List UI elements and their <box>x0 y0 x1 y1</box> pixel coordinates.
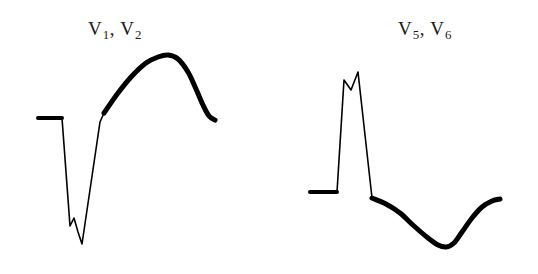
lead-label-v1-subscript: 1 <box>102 27 109 42</box>
right-qrs-complex <box>337 72 372 198</box>
ecg-traces-canvas <box>0 0 538 274</box>
left-qrs-complex <box>62 113 104 244</box>
lead-label-v2-subscript: 2 <box>134 27 141 42</box>
panel-right-trace <box>310 72 500 247</box>
lead-label-v6-base: V <box>430 18 444 39</box>
lead-label-v1-v2: V1, V2 <box>88 18 142 40</box>
lead-label-separator-right: , <box>420 18 431 39</box>
lead-label-v2-base: V <box>120 18 134 39</box>
lead-label-v5-v6: V5, V6 <box>398 18 452 40</box>
ecg-figure: V1, V2 V5, V6 <box>0 0 538 274</box>
lead-label-v6-subscript: 6 <box>444 27 451 42</box>
panel-left-trace <box>38 55 215 244</box>
lead-label-v5-subscript: 5 <box>412 27 419 42</box>
lead-label-separator-left: , <box>110 18 121 39</box>
lead-label-v5-base: V <box>398 18 412 39</box>
right-t-wave <box>372 198 500 247</box>
lead-label-v1-base: V <box>88 18 102 39</box>
left-t-wave <box>104 55 215 120</box>
